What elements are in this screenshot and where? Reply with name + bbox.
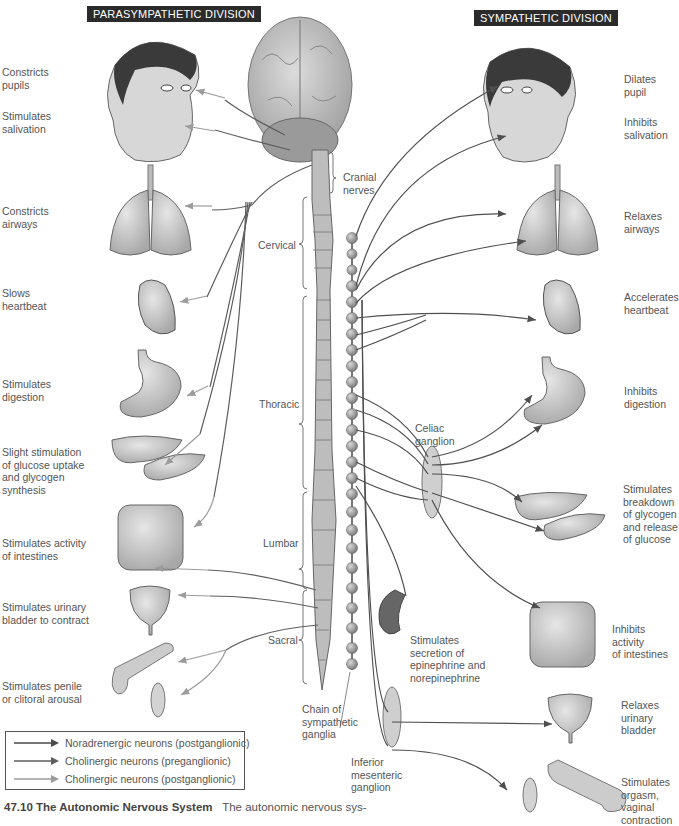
- dark-arrow-icon: [6, 735, 66, 751]
- para-label-glucose: Slight stimulation of glucose uptake and…: [2, 446, 84, 496]
- symp-label-glycogen: Stimulates breakdown of glycogen and rel…: [623, 483, 678, 546]
- medium-arrow-icon: [6, 753, 66, 769]
- bladder-right: [548, 694, 592, 743]
- symp-label-genitals: Stimulates orgasm, vaginal contraction: [621, 776, 672, 826]
- region-lumbar: Lumbar: [263, 537, 299, 550]
- para-label-genitals: Stimulates penile or clitoral arousal: [2, 680, 82, 705]
- para-label-intestines: Stimulates activity of intestines: [2, 537, 86, 562]
- intestines-right: [530, 602, 595, 667]
- celiac-ganglion-label: Celiac ganglion: [415, 422, 455, 447]
- bladder-left: [130, 586, 170, 635]
- genitals-left: [112, 643, 173, 717]
- legend-item-noradrenergic: Noradrenergic neurons (postganglionic): [6, 735, 244, 751]
- symp-label-adrenal: Stimulates secretion of epinephrine and …: [410, 634, 485, 684]
- genitals-right: [523, 760, 626, 812]
- region-thoracic: Thoracic: [259, 398, 299, 411]
- face-left: [107, 42, 199, 162]
- legend-item-cholinergic-pre: Cholinergic neurons (preganglionic): [6, 753, 244, 769]
- symp-label-salivation: Inhibits salivation: [624, 116, 668, 141]
- kidney-adrenal: [379, 590, 405, 634]
- sympathetic-chain-label: Chain of sympathetic ganglia: [302, 703, 358, 741]
- lungs-left: [110, 165, 191, 255]
- region-cranial-nerves: Cranial nerves: [343, 171, 376, 196]
- brain: [248, 17, 352, 162]
- symp-label-intestines: Inhibits activity of intestines: [612, 623, 679, 661]
- para-label-digestion: Stimulates digestion: [2, 378, 51, 403]
- para-label-pupils: Constricts pupils: [2, 66, 49, 91]
- inferior-mesenteric-ganglion: [383, 687, 401, 747]
- para-label-salivation: Stimulates salivation: [2, 110, 51, 135]
- face-right: [483, 48, 575, 162]
- intestines-left: [118, 505, 183, 570]
- symp-label-bladder: Relaxes urinary bladder: [621, 699, 659, 737]
- lungs-right: [517, 165, 598, 255]
- stomach-left: [120, 350, 181, 417]
- region-cervical: Cervical: [258, 239, 296, 252]
- symp-label-heart: Accelerates heartbeat: [624, 291, 679, 316]
- region-sacral: Sacral: [268, 634, 298, 647]
- para-label-heart: Slows heartbeat: [2, 287, 46, 312]
- legend-item-cholinergic-post: Cholinergic neurons (postganglionic): [6, 771, 244, 787]
- symp-label-digestion: Inhibits digestion: [624, 385, 666, 410]
- light-arrow-icon: [6, 771, 66, 787]
- symp-label-airways: Relaxes airways: [624, 210, 662, 235]
- inferior-mesenteric-label: Inferior mesenteric ganglion: [351, 756, 402, 794]
- heart-left: [138, 280, 175, 334]
- liver-pancreas-right: [515, 492, 605, 540]
- symp-label-pupil: Dilates pupil: [624, 73, 656, 98]
- legend: Noradrenergic neurons (postganglionic) C…: [5, 731, 245, 790]
- spinal-cord: [312, 150, 336, 690]
- figure-caption: 47.10 The Autonomic Nervous System The a…: [4, 801, 367, 813]
- para-label-bladder: Stimulates urinary bladder to contract: [2, 601, 89, 626]
- para-label-airways: Constricts airways: [2, 205, 49, 230]
- caption-text: The autonomic nervous sys-: [222, 801, 366, 813]
- stomach-right: [524, 357, 585, 424]
- caption-title: 47.10 The Autonomic Nervous System: [4, 801, 213, 813]
- heart-right: [543, 280, 580, 334]
- sympathetic-chain: [340, 233, 358, 729]
